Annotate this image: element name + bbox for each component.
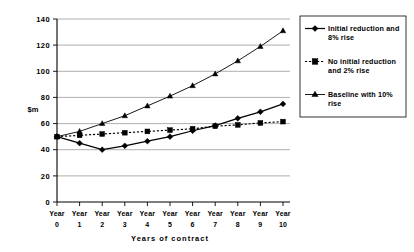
legend-label-2-line1: Baseline with 10%: [328, 90, 393, 99]
x-tick-label-2-word: Year: [94, 210, 110, 217]
x-tick-label-1-word: Year: [72, 210, 88, 217]
series-1-point-3: [122, 130, 127, 135]
x-tick-label-3-num: 3: [123, 221, 127, 228]
series-1-point-10: [281, 119, 286, 124]
series-1-point-8: [235, 122, 240, 127]
x-tick-label-4-word: Year: [140, 210, 156, 217]
x-tick-label-8-num: 8: [236, 221, 240, 228]
legend-label-0-line1: Initial reduction and: [328, 24, 399, 33]
x-tick-label-10-num: 10: [279, 221, 287, 228]
chart-legend: Initial reduction and 8% rise No initial…: [300, 16, 406, 117]
y-tick-label-20: 20: [41, 172, 50, 181]
chart-figure: 140 120 100 80 60 40 20 0 $m: [0, 0, 414, 252]
series-1-point-2: [100, 132, 105, 137]
y-tick-label-0: 0: [45, 198, 50, 207]
x-tick-label-6-word: Year: [185, 210, 201, 217]
series-1-point-4: [145, 129, 150, 134]
y-tick-label-40: 40: [41, 145, 50, 154]
x-tick-label-1-num: 1: [78, 221, 82, 228]
line-chart-svg: 140 120 100 80 60 40 20 0 $m: [0, 0, 414, 252]
legend-label-0-line2: 8% rise: [328, 33, 354, 42]
x-tick-label-0-word: Year: [49, 210, 65, 217]
x-tick-label-6-num: 6: [191, 221, 195, 228]
series-1-point-9: [258, 121, 263, 126]
x-tick-label-4-num: 4: [145, 221, 149, 228]
y-tick-label-140: 140: [36, 15, 50, 24]
series-1-point-6: [190, 126, 195, 131]
x-tick-label-2-num: 2: [100, 221, 104, 228]
y-axis-title: $m: [28, 105, 39, 114]
x-tick-label-7-word: Year: [207, 210, 223, 217]
legend-label-2-line2: rise: [328, 99, 341, 108]
y-tick-label-60: 60: [41, 119, 50, 128]
x-tick-label-7-num: 7: [213, 221, 217, 228]
x-tick-label-5-word: Year: [162, 210, 178, 217]
x-tick-label-3-word: Year: [117, 210, 133, 217]
legend-label-1-line1: No initial reduction: [328, 57, 396, 66]
x-tick-label-9-word: Year: [253, 210, 269, 217]
y-tick-label-100: 100: [36, 67, 50, 76]
legend-marker-square-icon: [312, 59, 318, 65]
legend-label-1-line2: and 2% rise: [328, 66, 370, 75]
x-tick-label-10-word: Year: [275, 210, 291, 217]
x-tick-label-0-num: 0: [55, 221, 59, 228]
y-tick-label-80: 80: [41, 93, 50, 102]
y-tick-label-120: 120: [36, 41, 50, 50]
x-axis-title: Years of contract: [131, 234, 209, 243]
series-1-point-5: [168, 128, 173, 133]
x-tick-label-9-num: 9: [258, 221, 262, 228]
x-tick-label-8-word: Year: [230, 210, 246, 217]
x-tick-label-5-num: 5: [168, 221, 172, 228]
series-1-point-7: [213, 124, 218, 129]
